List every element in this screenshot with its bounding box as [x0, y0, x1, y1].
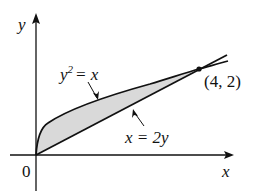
origin-label: 0	[22, 162, 31, 181]
intersection-point	[196, 66, 201, 71]
x-axis-label: x	[221, 162, 230, 181]
parabola-label: y2= x	[58, 63, 99, 84]
region-diagram: y x 0 y2= x x = 2y (4, 2)	[0, 0, 263, 191]
y-axis-label: y	[16, 15, 26, 34]
line-label: x = 2y	[124, 128, 169, 147]
intersection-label: (4, 2)	[204, 72, 241, 91]
